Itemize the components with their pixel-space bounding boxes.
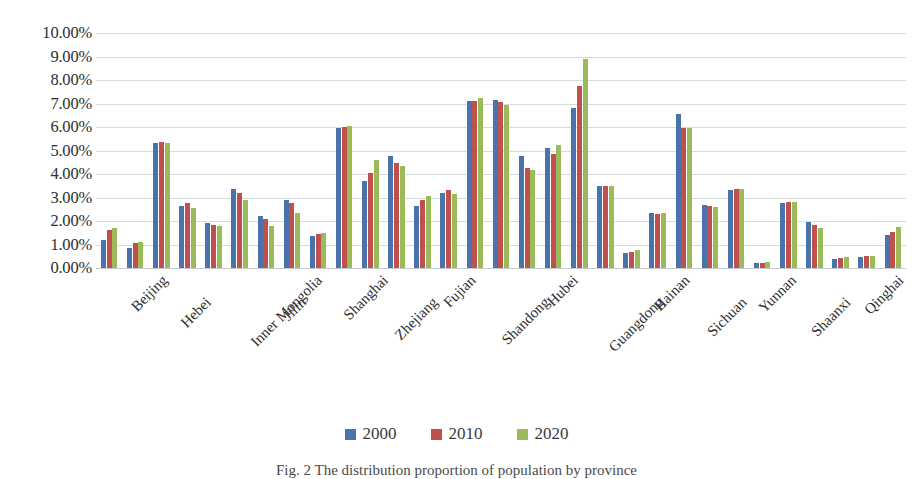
bar-2000	[205, 223, 210, 268]
bar-2010	[368, 173, 373, 268]
bar-group	[96, 33, 122, 268]
y-axis-tick-label: 4.00%	[50, 166, 92, 183]
bar-2010	[394, 163, 399, 268]
bar-group	[331, 33, 357, 268]
bar-2020	[583, 59, 588, 268]
bar-2000	[702, 205, 707, 268]
bar-group	[828, 33, 854, 268]
bar-2020	[556, 145, 561, 268]
bar-2020	[661, 213, 666, 268]
bar-2000	[623, 253, 628, 268]
bar-2000	[101, 240, 106, 268]
bar-group	[253, 33, 279, 268]
y-axis-tick-label: 3.00%	[50, 190, 92, 207]
x-axis-tick-label: Hubei	[544, 272, 582, 310]
bar-group	[201, 33, 227, 268]
bar-2010	[237, 193, 242, 268]
x-axis-tick-label: Fujian	[440, 272, 479, 311]
x-axis-tick-label: Beijing	[128, 272, 171, 315]
bar-group	[148, 33, 174, 268]
bar-2020	[400, 166, 405, 268]
y-axis-tick-label: 5.00%	[50, 143, 92, 160]
legend-swatch-icon	[517, 429, 528, 440]
bar-2010	[525, 168, 530, 268]
x-axis-tick-label: Shaanxi	[809, 294, 855, 340]
bar-2000	[310, 236, 315, 268]
bar-group	[357, 33, 383, 268]
bar-2020	[687, 128, 692, 268]
bar-group	[383, 33, 409, 268]
legend-item[interactable]: 2010	[431, 424, 483, 444]
bar-2000	[284, 200, 289, 268]
bar-2020	[112, 228, 117, 268]
bar-2000	[571, 108, 576, 268]
bar-2010	[577, 86, 582, 268]
bar-2000	[414, 206, 419, 268]
bar-2010	[289, 203, 294, 268]
gridline	[96, 268, 906, 269]
bar-2010	[107, 230, 112, 268]
figure-caption: Fig. 2 The distribution proportion of po…	[0, 462, 913, 479]
bar-groups	[96, 33, 906, 268]
bar-2020	[217, 226, 222, 268]
bar-2010	[316, 234, 321, 268]
bar-2010	[734, 189, 739, 268]
bar-2000	[832, 259, 837, 268]
bar-2010	[760, 263, 765, 268]
bar-group	[514, 33, 540, 268]
bar-2020	[844, 257, 849, 268]
bar-2010	[342, 127, 347, 268]
bar-2010	[498, 102, 503, 268]
bar-2020	[269, 226, 274, 268]
bar-2000	[676, 114, 681, 268]
x-axis-tick-label: Hebei	[178, 294, 215, 331]
legend-item[interactable]: 2000	[345, 424, 397, 444]
bar-group	[488, 33, 514, 268]
bar-2000	[885, 235, 890, 268]
bar-2010	[446, 190, 451, 268]
bar-2020	[426, 196, 431, 268]
bar-2000	[388, 156, 393, 268]
bar-2000	[153, 143, 158, 268]
bar-group	[279, 33, 305, 268]
legend-label: 2000	[363, 424, 397, 444]
bar-2020	[765, 262, 770, 268]
bar-2010	[263, 219, 268, 268]
bar-2010	[420, 200, 425, 268]
bar-2010	[786, 202, 791, 268]
y-axis-tick-label: 10.00%	[42, 25, 92, 42]
x-axis-tick-label: Zhejiang	[392, 294, 442, 344]
figure-container: 10.00%9.00%8.00%7.00%6.00%5.00%4.00%3.00…	[0, 0, 913, 479]
bar-2020	[896, 227, 901, 268]
bar-2010	[185, 203, 190, 268]
bar-group	[305, 33, 331, 268]
bar-2020	[165, 143, 170, 268]
bar-2000	[493, 100, 498, 268]
bar-2010	[551, 154, 556, 268]
bar-2020	[818, 228, 823, 268]
bar-2010	[472, 101, 477, 268]
y-axis-tick-label: 0.00%	[50, 260, 92, 277]
legend-item[interactable]: 2020	[517, 424, 569, 444]
bar-2010	[838, 258, 843, 268]
bar-2010	[211, 225, 216, 268]
bar-2010	[159, 142, 164, 268]
bar-2020	[478, 98, 483, 268]
bar-group	[462, 33, 488, 268]
bar-group	[436, 33, 462, 268]
bar-group	[723, 33, 749, 268]
x-axis-tick-label: Yunnan	[756, 272, 800, 316]
bar-2000	[597, 186, 602, 268]
bar-group	[854, 33, 880, 268]
x-axis-tick-label: Shandong	[498, 294, 552, 348]
bar-2000	[467, 101, 472, 268]
bar-2000	[440, 193, 445, 268]
bar-2000	[754, 263, 759, 268]
bar-group	[540, 33, 566, 268]
bar-2020	[452, 194, 457, 268]
x-axis-tick-label: Hainan	[650, 272, 693, 315]
bar-2000	[336, 128, 341, 268]
bar-2010	[133, 243, 138, 268]
bar-2010	[655, 214, 660, 268]
bar-group	[410, 33, 436, 268]
